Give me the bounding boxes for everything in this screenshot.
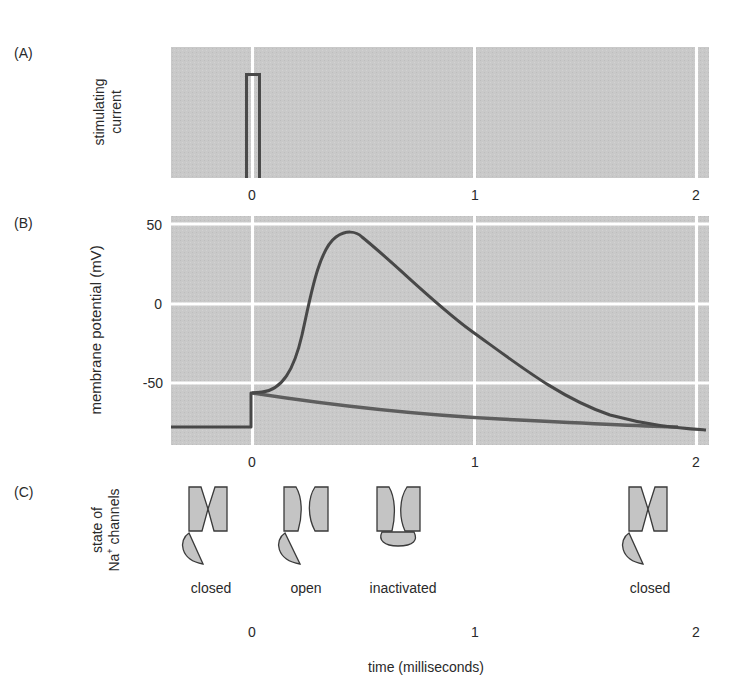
panel-b-xtick-2: 2 bbox=[692, 454, 700, 470]
panel-a-xtick-0: 0 bbox=[248, 187, 256, 203]
panel-a-xtick-2: 2 bbox=[692, 187, 700, 203]
panel-a-ylabel: stimulating current bbox=[91, 79, 124, 146]
channel-open bbox=[279, 487, 328, 564]
panel-c: (C) state of Na+ channels bbox=[14, 484, 700, 640]
channel-right-wall bbox=[648, 487, 667, 531]
panel-b-xtick-1: 1 bbox=[471, 454, 479, 470]
panel-c-label: (C) bbox=[14, 484, 33, 500]
channel-state-label-closed-2: closed bbox=[630, 580, 670, 596]
panel-c-xtick-2: 2 bbox=[692, 624, 700, 640]
panel-a-xtick-1: 1 bbox=[471, 187, 479, 203]
channel-left-wall bbox=[189, 487, 208, 531]
panel-c-ylabel: state of Na+ channels bbox=[89, 488, 122, 571]
channel-state-label-inactivated: inactivated bbox=[370, 580, 437, 596]
panel-a-ylabel-line2: current bbox=[108, 90, 124, 134]
panel-a-label: (A) bbox=[14, 45, 33, 61]
channel-left-wall bbox=[629, 487, 648, 531]
x-axis-title: time (milliseconds) bbox=[368, 659, 484, 675]
panel-b-label: (B) bbox=[14, 215, 33, 231]
channel-state-label-closed-1: closed bbox=[191, 580, 231, 596]
channel-closed-2 bbox=[623, 487, 667, 564]
panel-b-xtick-0: 0 bbox=[248, 454, 256, 470]
panel-c-xtick-0: 0 bbox=[248, 624, 256, 640]
inactivation-gate-ball bbox=[183, 533, 203, 564]
channel-right-wall bbox=[401, 487, 420, 531]
panel-c-ylabel-line2: Na+ channels bbox=[105, 488, 122, 571]
channel-state-label-open: open bbox=[290, 580, 321, 596]
channel-left-wall bbox=[284, 487, 301, 531]
panel-a: (A) stimulating current 0 1 2 bbox=[14, 45, 709, 203]
channel-right-wall bbox=[309, 487, 328, 531]
inactivation-gate-ball bbox=[279, 533, 300, 564]
panel-a-ylabel-line1: stimulating bbox=[91, 79, 107, 146]
panel-b-ylabel: membrane potential (mV) bbox=[87, 245, 104, 414]
panel-b: (B) membrane potential (mV) 50 0 -50 0 1… bbox=[14, 215, 709, 470]
panel-c-ylabel-line1: state of bbox=[89, 507, 105, 553]
panel-b-ytick-neg50: -50 bbox=[143, 375, 163, 391]
inactivation-gate-ball bbox=[623, 533, 643, 564]
panel-b-ytick-50: 50 bbox=[146, 217, 162, 233]
channel-right-wall bbox=[208, 487, 227, 531]
channel-inactivated bbox=[377, 487, 420, 546]
panel-c-xtick-1: 1 bbox=[471, 624, 479, 640]
inactivation-gate-ball bbox=[381, 532, 416, 546]
channel-closed-1 bbox=[183, 487, 227, 564]
panel-b-ytick-0: 0 bbox=[154, 296, 162, 312]
figure-canvas: (A) stimulating current 0 1 2 (B) membra… bbox=[0, 0, 751, 698]
channel-left-wall bbox=[377, 487, 394, 531]
